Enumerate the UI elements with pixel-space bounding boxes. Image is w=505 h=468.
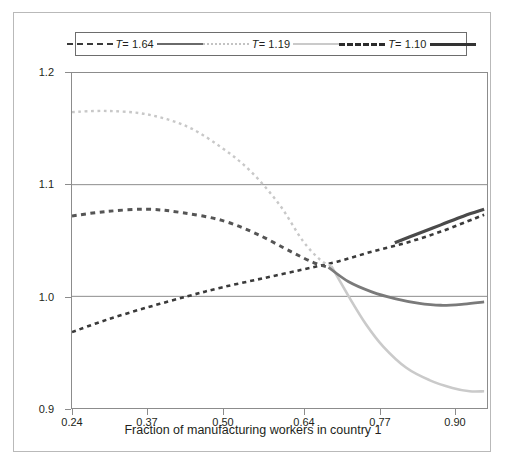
legend-entry-3: T= 1.10 [339, 38, 475, 50]
series-line-5 [395, 209, 484, 243]
x-axis-title: Fraction of manufacturing workers in cou… [14, 423, 492, 437]
y-tick-mark-0 [65, 409, 71, 410]
legend-label-1: T= 1.64 [113, 38, 157, 50]
legend-value-2: = 1.19 [259, 38, 291, 50]
y-tick-label-2: 1.1 [14, 178, 54, 190]
legend-value-1: = 1.64 [122, 38, 154, 50]
y-tick-label-0: 0.9 [14, 403, 54, 415]
series-line-1 [72, 111, 331, 266]
chart-svg [72, 73, 487, 408]
series-layer [72, 111, 484, 392]
gridlines [72, 185, 487, 297]
legend-entry-2: T= 1.19 [203, 38, 339, 50]
plot-area [71, 72, 488, 409]
legend-symbol-T-3: T [388, 38, 395, 50]
series-line-3 [72, 209, 328, 267]
legend-dash-swatch-3 [339, 43, 385, 46]
x-tick-mark-2 [223, 409, 224, 415]
plot-wrapper: Relative real wage (W1/W2) 0.9 1.0 1.1 1… [58, 72, 488, 409]
legend-solid-swatch-3 [430, 43, 476, 46]
legend-label-2: T= 1.19 [249, 38, 293, 50]
legend-solid-swatch-1 [157, 43, 203, 45]
x-tick-mark-1 [147, 409, 148, 415]
x-tick-mark-4 [380, 409, 381, 415]
legend-entry-1: T= 1.64 [67, 38, 203, 50]
legend-label-3: T= 1.10 [385, 38, 429, 50]
y-tick-label-1: 1.0 [14, 291, 54, 303]
figure-container: T= 1.64 T= 1.19 T= 1.10 Relative real wa… [13, 12, 491, 452]
legend-dash-swatch-1 [67, 43, 113, 45]
y-tick-label-3: 1.2 [14, 66, 54, 78]
legend-symbol-T-2: T [252, 38, 259, 50]
legend-dash-swatch-2 [203, 43, 249, 45]
chart-legend: T= 1.64 T= 1.19 T= 1.10 [75, 32, 467, 56]
legend-solid-swatch-2 [293, 43, 339, 45]
x-tick-mark-0 [72, 409, 73, 415]
x-tick-mark-3 [304, 409, 305, 415]
legend-value-3: = 1.10 [395, 38, 427, 50]
x-tick-mark-5 [455, 409, 456, 415]
